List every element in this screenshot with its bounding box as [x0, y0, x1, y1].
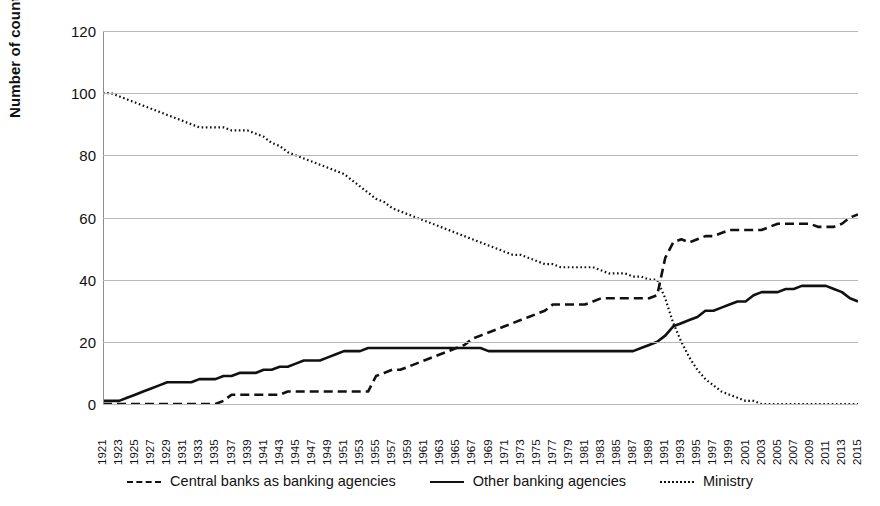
- x-axis-tick-label: 1945: [289, 439, 301, 465]
- x-axis-tick-label: 1985: [610, 439, 622, 465]
- x-axis-tick-label: 1953: [353, 439, 365, 465]
- x-axis-tick-label: 1999: [722, 439, 734, 465]
- y-axis-tick-label: 40: [52, 271, 96, 288]
- y-axis-tick-label: 80: [52, 147, 96, 164]
- x-axis-tick-label: 1997: [706, 439, 718, 465]
- x-axis-tick-label: 1971: [498, 439, 510, 465]
- x-axis-tick-label: 1973: [514, 439, 526, 465]
- x-axis-tick-label: 1939: [241, 439, 253, 465]
- x-axis-tick-label: 1929: [160, 439, 172, 465]
- legend-item[interactable]: Ministry: [660, 473, 753, 489]
- y-axis-tick-label: 0: [52, 396, 96, 413]
- gridline: [103, 280, 858, 281]
- x-axis-tick-label: 2003: [755, 439, 767, 465]
- x-axis-tick-label: 1969: [482, 439, 494, 465]
- x-axis-tick-label: 1923: [112, 439, 124, 465]
- gridline: [103, 218, 858, 219]
- y-axis-title: Number of countries: [6, 0, 23, 118]
- legend-item[interactable]: Central banks as banking agencies: [127, 473, 396, 489]
- x-axis-tick-label: 1959: [401, 439, 413, 465]
- x-axis-tick-labels: 1921192319251927192919311933193519371939…: [103, 407, 858, 465]
- chart-legend: Central banks as banking agenciesOther b…: [0, 466, 880, 496]
- x-axis-tick-label: 1979: [562, 439, 574, 465]
- x-axis-tick-label: 1955: [369, 439, 381, 465]
- x-axis-tick-label: 1963: [433, 439, 445, 465]
- x-axis-tick-label: 1949: [321, 439, 333, 465]
- x-axis-tick-label: 1967: [465, 439, 477, 465]
- x-axis-tick-label: 1937: [225, 439, 237, 465]
- series-line: [103, 286, 858, 401]
- y-axis-tick-label: 100: [52, 85, 96, 102]
- x-axis-tick-label: 1943: [273, 439, 285, 465]
- x-axis-tick-label: 1941: [257, 439, 269, 465]
- x-axis-tick-label: 2015: [851, 439, 863, 465]
- y-axis-tick-labels: 020406080100120: [44, 0, 96, 420]
- x-axis-tick-label: 1931: [176, 439, 188, 465]
- legend-item[interactable]: Other banking agencies: [430, 473, 626, 489]
- gridline: [103, 93, 858, 94]
- x-axis-tick-label: 2005: [771, 439, 783, 465]
- y-axis-tick-label: 120: [52, 23, 96, 40]
- x-axis-tick-label: 1981: [578, 439, 590, 465]
- x-axis-tick-label: 1995: [690, 439, 702, 465]
- x-axis-tick-label: 1961: [417, 439, 429, 465]
- x-axis-tick-label: 2007: [787, 439, 799, 465]
- plot-area: [103, 31, 858, 404]
- y-axis-tick-label: 60: [52, 209, 96, 226]
- x-axis-tick-label: 1987: [626, 439, 638, 465]
- x-axis-tick-label: 1947: [305, 439, 317, 465]
- chart-figure: Number of countries 020406080100120 1921…: [0, 0, 880, 506]
- gridline: [103, 31, 858, 32]
- x-axis-tick-label: 1921: [96, 439, 108, 465]
- x-axis-tick-label: 2013: [835, 439, 847, 465]
- gridline: [103, 155, 858, 156]
- gridline: [103, 404, 858, 405]
- x-axis-tick-label: 1977: [546, 439, 558, 465]
- x-axis-tick-label: 1935: [208, 439, 220, 465]
- gridline: [103, 342, 858, 343]
- x-axis-tick-label: 2011: [819, 440, 831, 465]
- x-axis-tick-label: 1957: [385, 439, 397, 465]
- x-axis-tick-label: 1975: [530, 439, 542, 465]
- legend-label: Other banking agencies: [473, 473, 626, 489]
- x-axis-tick-label: 1993: [674, 439, 686, 465]
- x-axis-tick-label: 1965: [449, 439, 461, 465]
- x-axis-tick-label: 1951: [337, 439, 349, 465]
- legend-swatch-solid-icon: [430, 481, 464, 483]
- legend-swatch-dashed-icon: [127, 481, 161, 483]
- legend-swatch-dotted-icon: [660, 481, 694, 483]
- legend-label: Central banks as banking agencies: [170, 473, 396, 489]
- x-axis-tick-label: 1983: [594, 439, 606, 465]
- x-axis-tick-label: 1989: [642, 439, 654, 465]
- x-axis-tick-label: 1927: [144, 439, 156, 465]
- x-axis-tick-label: 1925: [128, 439, 140, 465]
- series-line: [103, 93, 858, 404]
- legend-label: Ministry: [703, 473, 753, 489]
- x-axis-tick-label: 1991: [658, 439, 670, 465]
- x-axis-tick-label: 2009: [803, 439, 815, 465]
- x-axis-tick-label: 1933: [192, 439, 204, 465]
- x-axis-tick-label: 2001: [739, 439, 751, 465]
- y-axis-tick-label: 20: [52, 333, 96, 350]
